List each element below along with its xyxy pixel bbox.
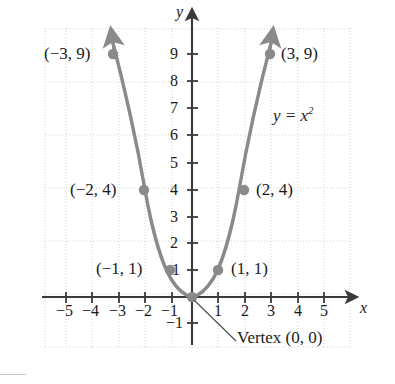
y-tick-1: 1 — [172, 262, 180, 278]
label-point-neg2-4: (−2, 4) — [70, 181, 116, 198]
y-tick-5: 5 — [170, 155, 178, 171]
x-tick-5: 5 — [320, 303, 328, 319]
x-tick-4: 4 — [294, 303, 302, 319]
point-neg2-4 — [139, 185, 149, 195]
y-tick-6: 6 — [170, 127, 178, 143]
label-point-neg1-1: (−1, 1) — [96, 260, 142, 277]
point-3-9 — [265, 49, 275, 59]
vertex-annotation: Vertex (0, 0) — [237, 329, 322, 346]
x-tick-1: 1 — [214, 303, 222, 319]
x-tick-neg5: −5 — [56, 303, 73, 319]
y-axis-label: y — [176, 4, 183, 20]
point-neg3-9 — [108, 49, 118, 59]
y-tick-7: 7 — [170, 100, 178, 116]
equation-exponent: 2 — [308, 104, 314, 116]
bottom-divider — [0, 374, 26, 375]
y-tick-4: 4 — [170, 182, 178, 198]
y-tick-3: 3 — [170, 209, 178, 225]
equation-label: y = x2 — [273, 107, 314, 124]
point-1-1 — [213, 265, 223, 275]
x-axis-label: x — [360, 300, 367, 316]
point-2-4 — [239, 185, 249, 195]
label-point-2-4: (2, 4) — [256, 181, 293, 198]
x-tick-neg3: −3 — [109, 303, 126, 319]
point-0-0 — [187, 292, 197, 302]
label-point-neg3-9: (−3, 9) — [44, 45, 90, 62]
x-tick-2: 2 — [241, 303, 249, 319]
x-tick-neg1: −1 — [161, 303, 178, 319]
label-point-1-1: (1, 1) — [231, 260, 268, 277]
x-tick-3: 3 — [267, 303, 275, 319]
parabola-figure: 9 8 7 6 5 4 3 2 1 −1 −5 −4 −3 −2 −1 1 2 … — [0, 0, 395, 384]
x-tick-neg4: −4 — [82, 303, 99, 319]
y-tick-9: 9 — [170, 46, 178, 62]
y-tick-2: 2 — [170, 235, 178, 251]
label-point-3-9: (3, 9) — [281, 45, 318, 62]
x-tick-neg2: −2 — [135, 303, 152, 319]
equation-base: y = x — [273, 106, 308, 125]
y-tick-8: 8 — [170, 73, 178, 89]
